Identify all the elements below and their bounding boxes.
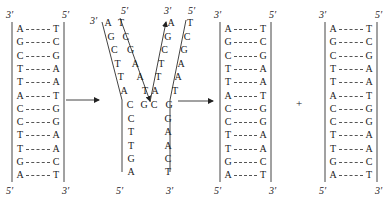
- base-left: G: [328, 157, 338, 167]
- base-right: A: [364, 64, 374, 74]
- base-left: T: [328, 144, 338, 154]
- base-left: C: [223, 104, 233, 114]
- base-right: G: [51, 104, 61, 114]
- fork-right-outer-base: T: [170, 86, 180, 96]
- base-left: C: [223, 117, 233, 127]
- base-left: T: [223, 64, 233, 74]
- fork-stem-left-base: C: [126, 114, 136, 124]
- base-left: C: [328, 104, 338, 114]
- base-left: C: [15, 51, 25, 61]
- base-right: A: [258, 77, 268, 87]
- base-right: G: [364, 104, 374, 114]
- base-left: C: [328, 51, 338, 61]
- base-left: T: [15, 130, 25, 140]
- base-right: A: [51, 130, 61, 140]
- fork-right-inner-base: T: [153, 72, 163, 82]
- base-left: T: [223, 130, 233, 140]
- base-left: C: [15, 104, 25, 114]
- hydrogen-bond: [339, 42, 363, 43]
- hydrogen-bond: [26, 29, 50, 30]
- base-left: T: [223, 77, 233, 87]
- hydrogen-bond: [234, 29, 257, 30]
- base-right: T: [51, 170, 61, 180]
- base-left: G: [223, 37, 233, 47]
- base-left: G: [15, 37, 25, 47]
- plus-sign: +: [296, 98, 302, 109]
- base-right: A: [51, 77, 61, 87]
- d1-right-bottom-label: 3′: [269, 186, 276, 196]
- hydrogen-bond: [339, 109, 363, 110]
- base-right: G: [258, 51, 268, 61]
- base-right: C: [51, 37, 61, 47]
- base-right: C: [258, 37, 268, 47]
- base-left: G: [15, 157, 25, 167]
- base-left: A: [223, 24, 233, 34]
- base-left: A: [328, 170, 338, 180]
- d1-left-bottom-label: 5′: [214, 186, 221, 196]
- fork-left-inner-base: G: [126, 45, 136, 55]
- base-left: A: [328, 24, 338, 34]
- base-right: G: [364, 117, 374, 127]
- fork-right-inner-base: C: [160, 45, 170, 55]
- base-right: T: [364, 91, 374, 101]
- base-left: T: [15, 64, 25, 74]
- fork-bottom-label-1: 5′: [116, 186, 123, 196]
- base-left: A: [15, 91, 25, 101]
- fork-right-outer-base: A: [176, 59, 186, 69]
- hydrogen-bond: [339, 162, 363, 163]
- fork-label-1: 3′: [90, 16, 97, 26]
- hydrogen-bond: [339, 69, 363, 70]
- parent-left-top-label: 3′: [6, 10, 13, 20]
- fork-junction-base: G: [139, 100, 149, 110]
- fork-label-3: 3′: [164, 6, 171, 16]
- base-right: C: [364, 157, 374, 167]
- hydrogen-bond: [234, 122, 257, 123]
- base-right: A: [51, 64, 61, 74]
- hydrogen-bond: [339, 135, 363, 136]
- base-left: T: [223, 144, 233, 154]
- base-left: A: [15, 24, 25, 34]
- hydrogen-bond: [234, 56, 257, 57]
- fork-stem-left-base: G: [126, 154, 136, 164]
- hydrogen-bond: [26, 82, 50, 83]
- base-right: C: [364, 37, 374, 47]
- hydrogen-bond: [234, 96, 257, 97]
- fork-stem-right-base: C: [163, 154, 173, 164]
- hydrogen-bond: [26, 69, 50, 70]
- fork-junction-base: C: [149, 100, 159, 110]
- d2-left-bottom-label: 5′: [319, 186, 326, 196]
- base-left: T: [15, 77, 25, 87]
- hydrogen-bond: [234, 175, 257, 176]
- hydrogen-bond: [339, 149, 363, 150]
- fork-right-outer-base: G: [179, 45, 189, 55]
- base-right: A: [51, 144, 61, 154]
- d2-left-top-label: 3′: [319, 10, 326, 20]
- base-right: G: [258, 104, 268, 114]
- fork-junction-base: C: [125, 100, 135, 110]
- fork-left-outer-base: G: [106, 32, 116, 42]
- base-left: A: [223, 91, 233, 101]
- base-left: G: [328, 37, 338, 47]
- fork-right-outer-base: T: [185, 18, 195, 28]
- hydrogen-bond: [234, 69, 257, 70]
- base-right: A: [364, 130, 374, 140]
- fork-junction-base: G: [164, 100, 174, 110]
- hydrogen-bond: [26, 149, 50, 150]
- base-right: G: [258, 117, 268, 127]
- fork-left-outer-base: A: [103, 18, 113, 28]
- base-right: A: [364, 144, 374, 154]
- hydrogen-bond: [26, 135, 50, 136]
- hydrogen-bond: [339, 175, 363, 176]
- base-right: G: [51, 117, 61, 127]
- hydrogen-bond: [26, 42, 50, 43]
- base-left: C: [15, 117, 25, 127]
- base-right: G: [51, 51, 61, 61]
- fork-left-outer-base: T: [113, 59, 123, 69]
- fork-stem-right-base: G: [163, 114, 173, 124]
- fork-left-inner-base: T: [140, 86, 150, 96]
- hydrogen-bond: [26, 56, 50, 57]
- fork-stem-left-base: T: [126, 141, 136, 151]
- fork-label-2: 5′: [121, 6, 128, 16]
- fork-stem-right-base: T: [163, 167, 173, 177]
- base-left: T: [328, 77, 338, 87]
